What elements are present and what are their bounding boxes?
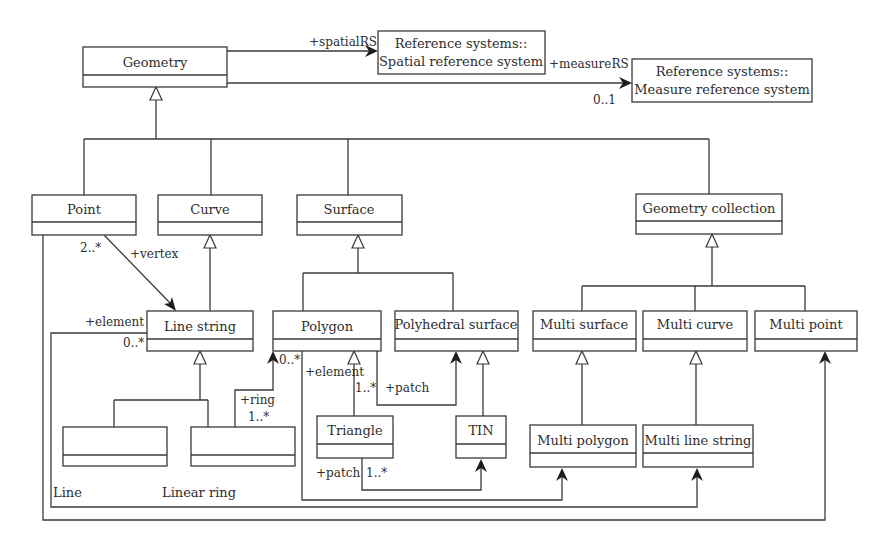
mult-vertex: 2..* (80, 241, 101, 255)
generalization-arrow-icon (352, 235, 364, 248)
class-name: Surface (323, 202, 374, 217)
class-measure-reference-system[interactable]: Reference systems:: Measure reference sy… (632, 59, 812, 102)
class-name: Triangle (327, 423, 383, 438)
class-name: Geometry collection (643, 201, 776, 216)
role-vertex: +vertex (130, 247, 179, 261)
assoc-multipoint-element (43, 234, 825, 520)
generalization-arrow-icon (194, 351, 206, 364)
role-ls-element: +element (85, 315, 144, 329)
class-tin[interactable]: TIN (456, 416, 506, 458)
mult-measure-rs: 0..1 (593, 93, 616, 107)
role-poly-element: +element (305, 365, 364, 379)
class-name: Line string (164, 319, 236, 334)
role-poly-patch: +patch (385, 381, 429, 395)
mult-ring: 1..* (248, 410, 269, 424)
class-spatial-reference-system[interactable]: Reference systems:: Spatial reference sy… (378, 31, 545, 74)
uml-diagram: Geometry Reference systems:: Spatial ref… (0, 0, 891, 543)
class-geometry-collection[interactable]: Geometry collection (636, 194, 782, 234)
role-measure-rs: +measureRS (549, 57, 629, 71)
role-spatial-rs: +spatialRS (309, 35, 377, 49)
assoc-vertex (104, 235, 172, 305)
generalization-arrow-icon (348, 351, 360, 364)
class-surface[interactable]: Surface (297, 195, 402, 235)
class-name-line2: Measure reference system (634, 82, 810, 97)
class-multi-polygon[interactable]: Multi polygon (530, 425, 636, 467)
class-name: Point (67, 202, 102, 217)
generalization-arrow-icon (477, 351, 489, 364)
generalization-arrow-icon (576, 351, 588, 364)
class-polyhedral-surface[interactable]: Polyhedral surface (395, 311, 519, 351)
generalization-arrow-icon (204, 235, 216, 248)
class-point[interactable]: Point (32, 195, 136, 235)
class-name: Curve (190, 202, 230, 217)
class-name: Multi line string (645, 433, 752, 448)
class-name-line1: Reference systems:: (395, 36, 528, 51)
class-name-line1: Reference systems:: (656, 64, 789, 79)
class-multi-curve[interactable]: Multi curve (643, 311, 747, 351)
generalization-arrow-icon (150, 87, 162, 100)
class-name: Polyhedral surface (395, 317, 518, 332)
class-name: Polygon (301, 319, 354, 334)
assoc-poly-patch (377, 350, 456, 405)
generalization-arrow-icon (690, 351, 702, 364)
class-multi-surface[interactable]: Multi surface (533, 311, 636, 351)
generalization-arrow-icon (706, 234, 718, 247)
class-name: TIN (468, 423, 493, 438)
class-line-string[interactable]: Line string (147, 311, 253, 351)
mult-poly-patch: 1..* (355, 381, 376, 395)
class-name: Multi curve (657, 317, 734, 332)
mult-ls-element: 0..* (123, 336, 144, 350)
class-name: Multi point (769, 317, 843, 332)
class-triangle[interactable]: Triangle (317, 416, 393, 458)
class-geometry[interactable]: Geometry (83, 47, 227, 87)
class-linear-ring[interactable] (191, 427, 295, 466)
class-name: Geometry (123, 55, 188, 70)
mult-poly-element: 0..* (279, 353, 300, 367)
role-tri-patch: +patch (316, 466, 360, 480)
role-ring: +ring (240, 393, 275, 407)
label-linear-ring: Linear ring (162, 485, 236, 500)
class-polygon[interactable]: Polygon (273, 311, 381, 351)
class-name: Multi polygon (537, 433, 629, 448)
class-name-line2: Spatial reference system (379, 54, 543, 69)
class-curve[interactable]: Curve (158, 195, 262, 235)
class-name: Multi surface (540, 317, 628, 332)
class-multi-point[interactable]: Multi point (755, 311, 857, 351)
mult-tri-patch: 1..* (366, 466, 387, 480)
label-line: Line (53, 485, 82, 500)
class-line[interactable] (63, 427, 167, 466)
class-multi-line-string[interactable]: Multi line string (643, 425, 753, 467)
